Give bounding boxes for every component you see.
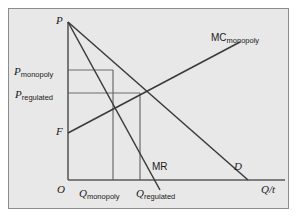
price-regulated-main: P [15, 88, 22, 100]
quantity-regulated-label: Qregulated [136, 184, 175, 200]
quantity-regulated-main: Q [136, 187, 144, 199]
demand-curve-label: D [234, 161, 242, 172]
x-axis-label: Q/t [261, 184, 275, 195]
y-axis-label: P [56, 15, 63, 26]
fixed-cost-point-label: F [56, 126, 63, 137]
quantity-monopoly-subscript: monopoly [87, 192, 120, 201]
price-monopoly-subscript: monopoly [21, 70, 54, 79]
origin-label: O [57, 184, 65, 195]
mc-label-subscript: monopoly [227, 36, 260, 45]
price-regulated-label: Pregulated [15, 85, 53, 101]
marginal-cost-curve-label: MCmonopoly [211, 33, 259, 43]
monopoly-regulation-diagram: P Q/t O F MCmonopoly MR D Pmonopoly Preg… [0, 0, 297, 219]
quantity-monopoly-main: Q [79, 187, 87, 199]
quantity-monopoly-label: Qmonopoly [79, 184, 119, 200]
mc-label-main: MC [211, 32, 227, 43]
quantity-regulated-subscript: regulated [144, 192, 175, 201]
price-regulated-subscript: regulated [22, 93, 53, 102]
price-monopoly-label: Pmonopoly [14, 62, 53, 78]
marginal-revenue-curve-label: MR [152, 162, 168, 172]
price-monopoly-main: P [14, 65, 21, 77]
